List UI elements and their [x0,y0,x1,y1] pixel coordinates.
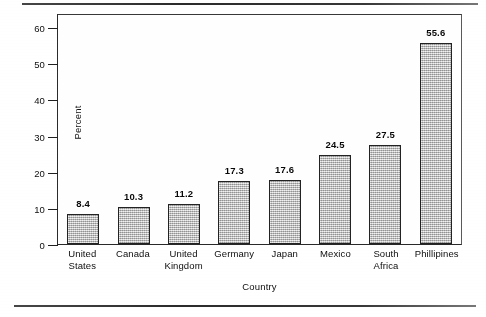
y-axis-tick [48,209,58,210]
y-axis-tick [48,245,58,246]
page-rule-bottom [14,305,476,307]
y-axis-tick-label: 0 [40,240,45,251]
x-axis-tick-label: Germany [209,248,260,271]
bar-value-label: 55.6 [411,27,461,38]
x-axis-tick-label: Mexico [310,248,361,271]
bar-group: 11.2 [159,15,209,244]
bar-group: 10.3 [108,15,158,244]
bar [168,204,200,245]
bar-value-label: 17.6 [260,164,310,175]
bar [269,180,301,244]
x-axis-tick-label: Japan [260,248,311,271]
bar-group: 17.3 [209,15,259,244]
bar-value-label: 8.4 [58,198,108,209]
bar-group: 55.6 [411,15,461,244]
x-axis-tick-label: United States [57,248,108,271]
plot-area: 8.410.311.217.317.624.527.555.6 [58,15,461,244]
y-axis-tick-label: 30 [34,131,45,142]
y-axis-tick [48,137,58,138]
x-axis-tick-label: United Kingdom [158,248,209,271]
x-axis-tick-label: South Africa [361,248,412,271]
bar [218,181,250,244]
x-axis-title: Country [57,281,462,292]
bar-value-label: 10.3 [108,191,158,202]
bar-chart-figure: Percent 0102030405060 8.410.311.217.317.… [0,0,486,317]
x-axis-tick-labels: United StatesCanadaUnited KingdomGermany… [57,248,462,271]
bar-group: 24.5 [310,15,360,244]
x-axis-tick-label: Phillipines [411,248,462,271]
bar [118,207,150,244]
bar-value-label: 11.2 [159,188,209,199]
x-axis-tick-label: Canada [108,248,159,271]
bar-value-label: 17.3 [209,165,259,176]
bar [369,145,401,244]
y-axis-tick-label: 10 [34,203,45,214]
y-axis-tick [48,64,58,65]
y-axis-tick-label: 20 [34,167,45,178]
bar-group: 17.6 [260,15,310,244]
y-axis-tick [48,100,58,101]
y-axis-tick-label: 60 [34,23,45,34]
bar [420,43,452,244]
bar-value-label: 27.5 [360,129,410,140]
bar [67,214,99,244]
plot-frame: Percent 0102030405060 8.410.311.217.317.… [57,14,462,245]
bar-value-label: 24.5 [310,139,360,150]
y-axis-tick [48,28,58,29]
bar-group: 27.5 [360,15,410,244]
y-axis-tick-label: 50 [34,59,45,70]
page-rule-top [22,3,478,5]
y-axis-tick-label: 40 [34,95,45,106]
bar [319,155,351,244]
y-axis-tick [48,173,58,174]
bar-group: 8.4 [58,15,108,244]
